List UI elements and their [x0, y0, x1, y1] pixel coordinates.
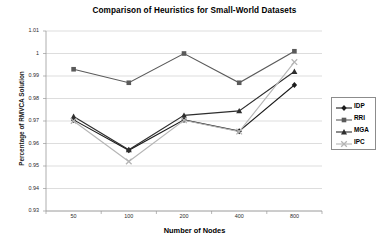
series-rri	[71, 49, 296, 85]
legend-marker	[342, 118, 347, 123]
legend: IDPRRIMGAIPC	[331, 97, 376, 150]
data-point	[292, 59, 298, 65]
data-point	[237, 80, 242, 85]
x-tick-label: 800	[274, 214, 314, 219]
cross-icon	[335, 136, 353, 148]
legend-marker	[341, 105, 346, 111]
square-icon	[335, 112, 353, 124]
series-ipc	[71, 59, 297, 164]
x-axis-label: Number of Nodes	[0, 226, 389, 235]
diamond-icon	[335, 100, 353, 112]
x-tick-label: 100	[109, 214, 149, 219]
legend-item-mga[interactable]: MGA	[334, 124, 376, 136]
legend-label: IDP	[354, 103, 365, 109]
data-point	[291, 69, 297, 74]
x-tick-label: 200	[164, 214, 204, 219]
data-point	[292, 49, 297, 54]
data-point	[182, 51, 187, 56]
data-series	[71, 49, 298, 164]
chart-container: Comparison of Heuristics for Small-World…	[0, 0, 389, 246]
legend-label: MGA	[354, 127, 369, 133]
legend-label: IPC	[354, 139, 365, 145]
triangle-icon	[335, 124, 353, 136]
legend-item-ipc[interactable]: IPC	[334, 136, 376, 148]
x-tick-label: 50	[54, 214, 94, 219]
legend-label: RRI	[354, 115, 365, 121]
data-point	[126, 159, 132, 165]
legend-item-idp[interactable]: IDP	[334, 100, 376, 112]
series-line	[74, 51, 295, 83]
x-tick-label: 400	[219, 214, 259, 219]
data-point	[71, 67, 76, 72]
data-point	[127, 80, 132, 85]
legend-item-rri[interactable]: RRI	[334, 112, 376, 124]
